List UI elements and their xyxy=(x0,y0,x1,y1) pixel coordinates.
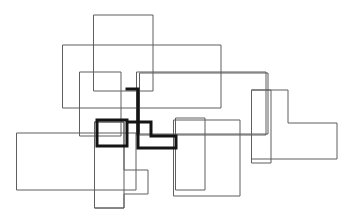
figure-container xyxy=(0,0,354,218)
canvas-background xyxy=(0,0,354,218)
overlapping-figures-canvas xyxy=(0,0,354,218)
